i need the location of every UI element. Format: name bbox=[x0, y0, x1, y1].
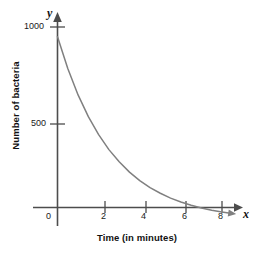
y-tick-label-500: 500 bbox=[31, 118, 46, 128]
y-axis-arrowhead bbox=[53, 12, 62, 22]
bacteria-decay-chart: 1000 500 0 2 4 6 8 y x Number of bacteri… bbox=[0, 0, 264, 257]
x-axis-arrowhead bbox=[234, 203, 243, 212]
decay-curve bbox=[58, 37, 231, 214]
y-axis-title: Number of bacteria bbox=[10, 51, 21, 161]
x-tick-label-8: 8 bbox=[218, 211, 223, 221]
x-tick-label-6: 6 bbox=[182, 211, 187, 221]
x-axis-title: Time (in minutes) bbox=[57, 232, 217, 243]
x-tick-label-0: 0 bbox=[46, 211, 51, 221]
y-tick-label-1000: 1000 bbox=[24, 21, 44, 31]
x-tick-label-2: 2 bbox=[101, 211, 106, 221]
x-axis-variable-label: x bbox=[243, 207, 249, 222]
chart-plot-area bbox=[0, 0, 264, 257]
y-axis-variable-label: y bbox=[47, 6, 52, 21]
x-tick-label-4: 4 bbox=[141, 211, 146, 221]
